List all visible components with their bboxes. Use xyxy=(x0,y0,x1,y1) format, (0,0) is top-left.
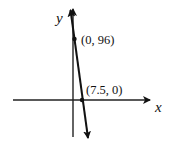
x-intercept-point xyxy=(80,98,84,102)
y-intercept-label: (0, 96) xyxy=(81,33,114,47)
y-axis-label: y xyxy=(54,10,63,26)
y-intercept-point xyxy=(72,37,76,41)
x-axis-label: x xyxy=(154,99,162,115)
x-intercept-label: (7.5, 0) xyxy=(86,83,122,97)
graph: y x (0, 96) (7.5, 0) xyxy=(0,0,170,150)
